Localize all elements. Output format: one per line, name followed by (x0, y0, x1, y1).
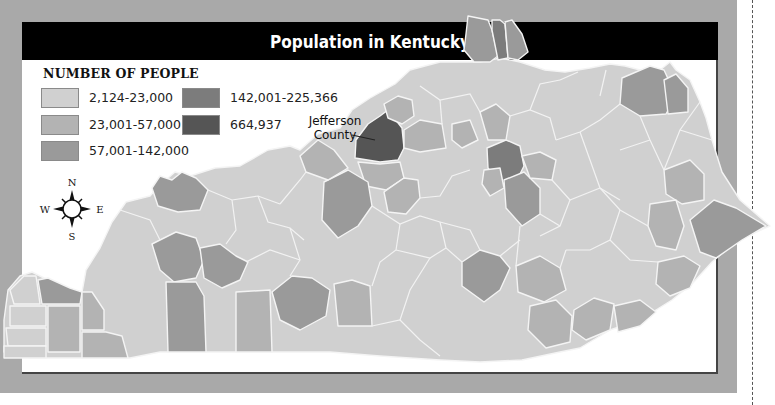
county-harlan (656, 256, 700, 296)
compass-e: E (96, 204, 103, 215)
legend-swatch (182, 88, 220, 108)
county-campbell (505, 20, 528, 60)
compass-n: N (68, 177, 77, 188)
legend-label: 23,001-57,000 (89, 117, 181, 132)
county-mccracken (38, 278, 82, 304)
legend-label: 57,001-142,000 (89, 143, 189, 158)
compass-w: W (40, 204, 51, 215)
county-graves (48, 306, 80, 352)
legend-label: 142,001-225,366 (230, 90, 338, 105)
county-hickman (6, 328, 46, 346)
county-barren (334, 280, 372, 326)
legend-swatch (41, 88, 79, 108)
county-logan (236, 290, 272, 352)
legend-swatch (41, 141, 79, 161)
compass-rose-icon: N S W E (38, 172, 108, 242)
county-christian (166, 282, 206, 352)
legend-swatch (41, 115, 79, 135)
county-fulton (4, 346, 46, 358)
county-carlisle (10, 306, 46, 326)
legend-label: 2,124-23,000 (89, 90, 173, 105)
compass-s: S (69, 231, 76, 242)
legend-title: NUMBER OF PEOPLE (43, 66, 199, 81)
legend-swatch (182, 115, 220, 135)
callout-line-1: Jefferson (302, 114, 368, 128)
legend-label: 664,937 (230, 117, 282, 132)
kentucky-county-map (0, 0, 775, 405)
county-calloway (82, 332, 128, 358)
jefferson-county-callout: Jefferson County (302, 114, 368, 142)
county-ballard (10, 276, 40, 304)
callout-line-2: County (302, 128, 368, 142)
